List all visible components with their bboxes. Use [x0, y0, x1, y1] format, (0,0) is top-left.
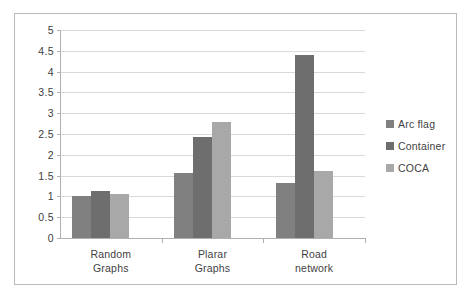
y-axis-labels: 00.511.522.533.544.55 [8, 30, 54, 238]
bar [276, 183, 295, 238]
y-axis-tick-label: 0 [12, 233, 54, 243]
y-axis-tick-mark [57, 176, 61, 177]
y-axis-tick-mark [57, 113, 61, 114]
y-axis-tick-mark [57, 155, 61, 156]
legend-label: COCA [398, 163, 429, 174]
chart-legend: Arc flagContainerCOCA [386, 113, 445, 179]
legend-label: Arc flag [398, 119, 435, 130]
bar [91, 191, 110, 238]
gridline [60, 30, 365, 31]
x-axis-tick-mark [162, 238, 163, 243]
y-axis-tick-label: 2.5 [12, 129, 54, 139]
x-axis-category-label-line: Graphs [162, 261, 264, 275]
gridline [60, 72, 365, 73]
bar [174, 173, 193, 238]
y-axis-tick-mark [57, 238, 61, 239]
legend-swatch-icon [386, 142, 394, 150]
y-axis-tick-mark [57, 51, 61, 52]
x-axis-line [60, 238, 366, 239]
bar [110, 194, 129, 239]
y-axis-tick-label: 5 [12, 25, 54, 35]
legend-label: Container [398, 141, 445, 152]
y-axis-tick-mark [57, 134, 61, 135]
y-axis-tick-mark [57, 92, 61, 93]
x-axis-category-label-line: Road [263, 247, 365, 261]
x-axis-category-label: PlararGraphs [162, 247, 264, 275]
legend-item[interactable]: Arc flag [386, 113, 445, 135]
bar [212, 122, 231, 238]
y-axis-tick-mark [57, 30, 61, 31]
plot-area [60, 30, 365, 238]
x-axis-category-label-line: Plarar [162, 247, 264, 261]
x-axis-tick-mark [365, 238, 366, 243]
y-axis-tick-label: 0.5 [12, 212, 54, 222]
legend-item[interactable]: Container [386, 135, 445, 157]
y-axis-tick-mark [57, 217, 61, 218]
legend-item[interactable]: COCA [386, 157, 445, 179]
y-axis-tick-label: 3.5 [12, 87, 54, 97]
y-axis-tick-label: 2 [12, 150, 54, 160]
legend-swatch-icon [386, 120, 394, 128]
y-axis-tick-label: 1 [12, 191, 54, 201]
x-axis-category-label-line: Random [60, 247, 162, 261]
bar [314, 171, 333, 238]
x-axis-tick-mark [263, 238, 264, 243]
y-axis-tick-mark [57, 72, 61, 73]
x-axis-category-label: Roadnetwork [263, 247, 365, 275]
x-axis-category-label: RandomGraphs [60, 247, 162, 275]
y-axis-tick-label: 4.5 [12, 46, 54, 56]
gridline [60, 92, 365, 93]
y-axis-tick-label: 4 [12, 67, 54, 77]
y-axis-tick-mark [57, 196, 61, 197]
y-axis-tick-label: 3 [12, 108, 54, 118]
bar [295, 55, 314, 238]
gridline [60, 51, 365, 52]
x-axis-category-label-line: Graphs [60, 261, 162, 275]
gridline [60, 113, 365, 114]
bar [193, 137, 212, 239]
chart-container: 00.511.522.533.544.55 Arc flagContainerC… [0, 0, 475, 304]
x-axis-category-label-line: network [263, 261, 365, 275]
y-axis-tick-label: 1.5 [12, 171, 54, 181]
bar [72, 196, 91, 238]
legend-swatch-icon [386, 164, 394, 172]
